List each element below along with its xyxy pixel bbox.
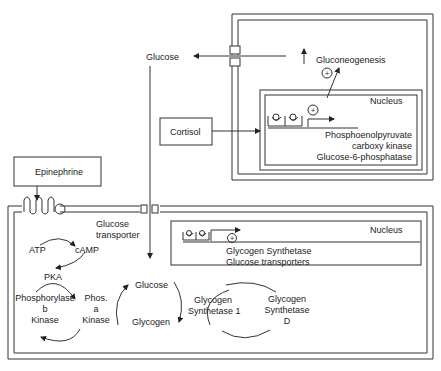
atp-label: ATP: [29, 245, 46, 255]
muscle-nucleus-label: Nucleus: [370, 225, 403, 235]
liver-gene-2: carboxy kinase: [352, 141, 412, 151]
phos-a-3: Kinase: [78, 315, 114, 325]
camp-label: cAMP: [75, 245, 99, 255]
glycogen-synthetase-d-c: D: [262, 316, 312, 326]
phos-a-2: a: [80, 304, 112, 314]
phosphorylase-b-1: Phosphorylase: [14, 293, 76, 303]
plus-gluconeogenesis: +: [325, 69, 329, 79]
glycogen-label: Glycogen: [132, 317, 170, 327]
glycogen-synthetase-d-a: Glycogen: [262, 294, 312, 304]
muscle-channel-left: [141, 205, 147, 213]
glucose-out-label: Glucose: [146, 52, 179, 62]
liver-channel-upper: [230, 46, 240, 54]
muscle-gene-2: Glucose transporters: [226, 257, 310, 267]
phosphorylase-b-2: b: [14, 304, 76, 314]
muscle-channel-right: [152, 205, 158, 213]
phos-a-1: Phos.: [80, 293, 112, 303]
plus-liver-gene: +: [311, 106, 315, 116]
liver-nucleus-label: Nucleus: [370, 96, 403, 106]
glycogen-synthetase-1-a: Glycogen: [188, 295, 238, 305]
muscle-gene-1: Glycogen Synthetase: [226, 246, 312, 256]
liver-gene-1: Phosphoenolpyruvate: [325, 130, 412, 140]
gluconeogenesis-label: Gluconeogenesis: [316, 55, 386, 65]
glucose-label: Glucose: [135, 280, 168, 290]
transporter-label-1: Glucose: [96, 219, 129, 229]
glycogen-synthetase-1-b: Synthetase 1: [188, 306, 238, 316]
cortisol-label: Cortisol: [170, 127, 201, 137]
epinephrine-label: Epinephrine: [35, 167, 83, 177]
plus-muscle-gene: +: [230, 234, 234, 244]
beta-receptor: [24, 197, 54, 214]
liver-gene-3: Glucose-6-phosphatase: [316, 152, 412, 162]
phosphorylase-b-3: Kinase: [14, 315, 76, 325]
liver-transcription-arrow: [308, 119, 334, 127]
pka-label: PKA: [44, 272, 62, 282]
liver-channel-lower: [230, 58, 240, 66]
transporter-label-2: transporter: [96, 230, 140, 240]
glycogen-synthetase-d-b: Synthetase: [262, 305, 312, 315]
